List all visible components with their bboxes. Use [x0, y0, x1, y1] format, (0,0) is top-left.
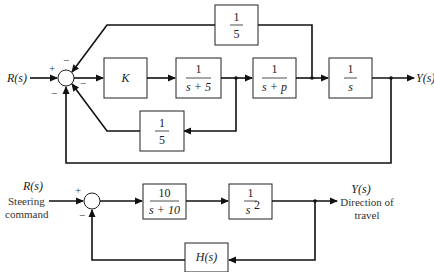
plant-num: 1	[248, 186, 254, 200]
bottom-summing-junction	[84, 193, 100, 209]
block5-num: 1	[196, 62, 202, 76]
block5-den: s + 5	[186, 80, 211, 94]
topfb-den: 5	[234, 27, 240, 41]
controller-num: 10	[159, 186, 171, 200]
top-output-label: Y(s)	[416, 71, 434, 85]
top-sign-top: −	[63, 54, 69, 66]
topfb-num: 1	[234, 10, 240, 24]
block-K-text: K	[120, 71, 130, 85]
integrator-num: 1	[348, 62, 354, 76]
bottom-sign-plus: +	[75, 184, 81, 196]
innerfb-num: 1	[159, 116, 165, 130]
plant-den: s	[246, 203, 251, 217]
block-diagrams: R(s) + − − − K 1 s + 5 1 s + p 1 s	[0, 0, 434, 272]
top-input-label: R(s)	[6, 71, 27, 85]
bottom-input-desc-2: command	[5, 208, 49, 220]
top-sign-bottom-left: −	[51, 87, 57, 99]
bottom-input-label: R(s)	[22, 179, 43, 193]
bottom-diagram: R(s) Steering command + − 10 s + 10 1 s …	[5, 179, 394, 272]
integrator-den: s	[348, 80, 353, 94]
bottom-input-desc-1: Steering	[8, 195, 45, 207]
blockp-den: s + p	[262, 80, 287, 94]
controller-den: s + 10	[149, 203, 180, 217]
bottom-output-label: Y(s)	[351, 182, 370, 196]
bottom-sign-minus: −	[79, 209, 85, 221]
plant-den-exponent: 2	[254, 198, 260, 212]
bottom-output-desc-2: travel	[354, 209, 379, 221]
blockp-num: 1	[272, 62, 278, 76]
innerfb-den: 5	[159, 133, 165, 147]
top-sign-plus: +	[49, 62, 55, 74]
bottom-output-desc-1: Direction of	[340, 196, 394, 208]
block-H-text: H(s)	[195, 250, 217, 264]
top-diagram: R(s) + − − − K 1 s + 5 1 s + p 1 s	[6, 5, 434, 163]
top-summing-junction	[58, 70, 74, 86]
